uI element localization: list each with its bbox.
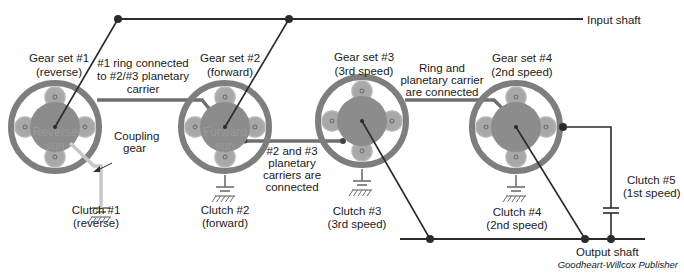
clutch-5-title: Clutch #5 [627,174,676,186]
clutch-5-subtitle: (1st speed) [623,187,681,199]
ground-hatch [508,196,512,202]
publisher-credit: Goodheart-Willcox Publisher [558,259,679,270]
clutch-4-ground [503,175,526,202]
annotation-carriers-connected-3: carriers are [263,169,321,181]
clutch-2-title: Clutch #2 [201,204,250,216]
clutch-4-title: Clutch #4 [493,206,542,218]
ground-hatch [230,196,234,202]
ground-hatch [221,196,225,202]
clutch-2-ground [212,175,235,202]
output-shaft-label: Output shaft [576,246,639,258]
gear-set-2-subtitle: (forward) [207,66,253,78]
sun-1-label-line2: sun [45,139,64,153]
sun-2-label-line2: sun [215,139,234,153]
annotation-coupling-1: Coupling [114,130,159,142]
ground-hatch [512,196,516,202]
annotation-coupling-2: gear [123,142,146,154]
ground-hatch [226,196,230,202]
gear-set-1-title: Gear set #1 [29,52,89,64]
output-node-1 [426,235,434,243]
ground-hatch [354,190,358,196]
annotation-carriers-connected-4: connected [265,181,318,193]
clutch-3-ground [349,169,372,196]
annotation-carriers-connected-2: planetary [268,157,316,169]
input-shaft-label: Input shaft [587,14,642,26]
gear-set-3-title: Gear set #3 [334,51,394,63]
sun3-hub [360,119,364,123]
output-node-2 [581,235,589,243]
clutch-3-title: Clutch #3 [333,205,382,217]
ground-hatch [358,190,362,196]
ring1-to-carrier-link [97,100,212,112]
annotation-ring-and-carrier-2: planetary carrier [400,74,483,86]
coupling-gear-link [70,143,101,208]
clutch-4-subtitle: (2nd speed) [486,219,548,231]
gear-set-3-subtitle: (3rd speed) [335,65,394,77]
ring3-to-carrier4-link [405,100,502,108]
clutch-2-subtitle: (forward) [202,217,248,229]
annotation-ring-to-carrier-3: carrier [127,83,160,95]
ground-hatch [349,190,353,196]
ground-hatch [503,196,507,202]
annotation-ring-and-carrier-1: Ring and [419,62,465,74]
gear-set-4-subtitle: (2nd speed) [491,66,553,78]
gear-set-2-title: Gear set #2 [200,52,260,64]
clutch-1-title: Clutch #1 [72,204,121,216]
ground-hatch [217,196,221,202]
sun4-hub [514,125,518,129]
sun-2-label-line1: Forward [203,125,247,139]
ground-hatch [517,196,521,202]
transmission-powerflow-diagram: Input shaft Output shaft Gear set #1 (re… [0,0,684,274]
gear-set-4-title: Gear set #4 [492,52,553,64]
sun-1-label-line1: Reverse [33,125,78,139]
gear-set-1-subtitle: (reverse) [36,66,82,78]
clutch-1-subtitle: (reverse) [73,217,119,229]
ring4-to-clutch5 [563,127,611,208]
ground-hatch [363,190,367,196]
ground-hatch [521,196,525,202]
ring4-node [559,123,567,131]
annotation-ring-and-carrier-3: are connected [406,86,479,98]
ground-hatch [212,196,216,202]
ground-hatch [367,190,371,196]
annotation-ring-to-carrier-1: #1 ring connected [97,57,188,69]
annotation-carriers-connected-1: #2 and #3 [266,145,317,157]
clutch-3-subtitle: (3rd speed) [328,218,387,230]
annotation-ring-to-carrier-2: to #2/#3 planetary [97,70,189,82]
